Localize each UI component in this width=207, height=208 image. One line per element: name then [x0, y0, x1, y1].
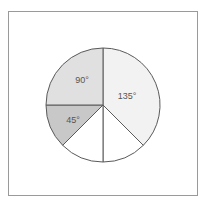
pie-slice-label-135: 135°: [118, 91, 137, 101]
pie-slice-label-90: 90°: [75, 75, 89, 85]
pie-chart-figure: 135°45°90°: [0, 0, 207, 208]
pie-chart: 135°45°90°: [0, 0, 207, 208]
pie-sector-group: [46, 48, 160, 162]
pie-slice-label-45: 45°: [66, 115, 80, 125]
